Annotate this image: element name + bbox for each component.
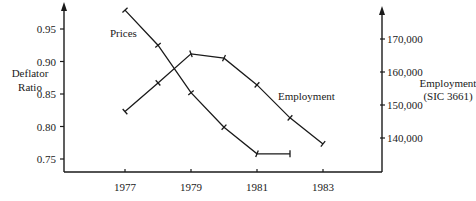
left-axis-title-line2: Ratio [18,81,42,93]
left-tick-label: 0.95 [37,23,57,35]
series-layer [122,8,325,158]
right-axis-arrow-icon [379,6,385,15]
left-tick-label: 0.75 [37,153,57,165]
left-tick-label: 0.80 [37,121,57,133]
left-axis-ticks: 0.750.800.850.900.95 [37,23,64,165]
left-axis-arrow-icon [61,2,67,11]
chart-canvas: 0.750.800.850.900.95 140,000150,000160,0… [0,0,476,201]
series-prices [122,8,290,158]
right-axis-title-line1: Employment [420,77,476,89]
right-tick-label: 150,000 [387,99,423,111]
right-tick-label: 170,000 [387,33,423,45]
right-axis-ticks: 140,000150,000160,000170,000 [380,33,423,144]
right-axis-title-line2: (SIC 3661) [423,90,473,103]
right-tick-label: 160,000 [387,66,423,78]
x-tick-label: 1979 [180,181,203,193]
x-tick-label: 1981 [246,181,268,193]
left-tick-label: 0.90 [37,56,57,68]
right-y-axis [379,6,385,172]
series-label-prices: Prices [110,27,137,39]
dual-axis-line-chart: 0.750.800.850.900.95 140,000150,000160,0… [0,0,476,201]
right-tick-label: 140,000 [387,132,423,144]
x-tick-label: 1983 [312,181,335,193]
left-axis-title-line1: Deflator [12,67,49,79]
series-label-employment: Employment [278,90,335,102]
left-y-axis [61,2,67,172]
x-tick-label: 1977 [114,181,137,193]
